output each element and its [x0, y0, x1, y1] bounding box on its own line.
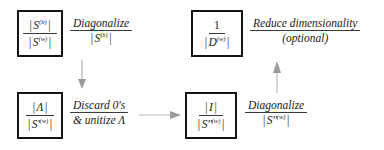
fraction-lambda-sw: |Λ| |S'(w)| — [21, 100, 58, 131]
fraction-denominator: |S'(w)| — [21, 116, 58, 131]
bar-right-icon: | — [220, 118, 225, 130]
fraction-denominator: |D(w)| — [198, 34, 236, 49]
label-fraction: Reduce dimensionality (optional) — [250, 16, 360, 45]
label-line-1: Reduce dimensionality — [250, 16, 360, 31]
node-one-dw: 1 |D(w)| — [191, 10, 243, 57]
node-i-sw: |I| |S''(w)| — [185, 92, 237, 139]
superscript-w: (w) — [39, 35, 48, 42]
node-sb-sw: |S(b)| |S(w)| — [17, 10, 63, 57]
bar-right-icon: | — [47, 19, 52, 31]
fraction-numerator: |S(b)| — [23, 18, 57, 34]
label-line-1: Diagonalize — [70, 16, 132, 31]
label-line-2: (optional) — [279, 31, 331, 45]
arrow-down-left — [74, 60, 90, 90]
fraction-denominator: |S''(w)| — [191, 116, 230, 131]
node-lambda-sw: |Λ| |S'(w)| — [17, 92, 63, 139]
label-line-2: & unitize Λ — [70, 113, 128, 127]
fraction-i-sw: |I| |S''(w)| — [191, 100, 230, 131]
arrow-up-right — [269, 59, 285, 93]
superscript-b: (b) — [39, 19, 47, 26]
arrow-right-bottom — [139, 107, 183, 123]
label-fraction: Discard 0's & unitize Λ — [70, 98, 128, 127]
superscript-w: (w) — [40, 117, 49, 124]
fraction-denominator: |S(w)| — [22, 34, 57, 49]
fraction-numerator: |I| — [199, 100, 223, 116]
label-fraction: Diagonalize |S''(w)| — [245, 98, 307, 127]
symbol-S-double-prime: S'' — [202, 118, 212, 130]
bar-right-icon: | — [108, 32, 113, 44]
label-line-2: |S''(w)| — [258, 113, 293, 127]
bar-right-icon: | — [225, 36, 230, 48]
fraction-numerator: |Λ| — [26, 100, 54, 116]
diagram-canvas: |S(b)| |S(w)| Diagonalize |S(b)| 1 |D(w)… — [0, 0, 384, 150]
bar-right-icon: | — [213, 101, 218, 113]
label-discard-unitize: Discard 0's & unitize Λ — [70, 95, 128, 127]
bar-right-icon: | — [48, 118, 53, 130]
fraction-one-dw: 1 |D(w)| — [198, 18, 236, 49]
label-line-2: |S(b)| — [86, 31, 116, 45]
label-diagonalize-sw2: Diagonalize |S''(w)| — [245, 95, 307, 127]
label-reduce-dimensionality: Reduce dimensionality (optional) — [250, 13, 360, 45]
fraction-sb-sw: |S(b)| |S(w)| — [22, 18, 57, 49]
symbol-S-prime: S' — [32, 118, 40, 130]
label-line-1: Discard 0's — [70, 98, 128, 113]
label-fraction: Diagonalize |S(b)| — [70, 16, 132, 45]
bar-right-icon: | — [43, 101, 48, 113]
label-diagonalize-sb: Diagonalize |S(b)| — [70, 13, 132, 45]
symbol-S-double-prime: S'' — [267, 114, 277, 126]
superscript-b: (b) — [100, 31, 108, 38]
fraction-numerator: 1 — [209, 18, 225, 34]
bar-right-icon: | — [285, 114, 290, 126]
label-line-1: Diagonalize — [245, 98, 307, 113]
symbol-D: D — [209, 36, 217, 48]
bar-right-icon: | — [47, 36, 52, 48]
